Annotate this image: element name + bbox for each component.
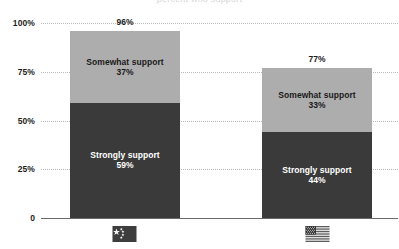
y-axis-tick-25: 25% (1, 164, 35, 174)
bar-total-label-united-states: 77% (308, 54, 325, 64)
y-axis-tick-50: 50% (1, 116, 35, 126)
bar-segment-strongly-support-china[interactable]: Strongly support 59% (70, 103, 180, 218)
segment-label: Strongly support (282, 165, 351, 175)
stacked-bar-chart: percent who support 100% 75% 50% 25% 0 9… (0, 0, 399, 249)
china-flag-icon (112, 226, 137, 242)
plot-area: 100% 75% 50% 25% 0 96% Somewhat support … (41, 23, 398, 218)
y-axis-tick-75: 75% (1, 67, 35, 77)
segment-label: Somewhat support (86, 57, 163, 67)
segment-value: 33% (308, 100, 325, 110)
chart-title-text: percent who support (157, 0, 242, 4)
y-axis-tick-0: 0 (1, 213, 35, 223)
segment-value: 37% (116, 67, 133, 77)
segment-value: 44% (308, 175, 325, 185)
bar-total-label-china: 96% (116, 17, 133, 27)
bar-segment-somewhat-support-united-states[interactable]: Somewhat support 33% (262, 68, 372, 132)
bar-united-states[interactable]: 77% Somewhat support 33% Strongly suppor… (262, 68, 372, 218)
y-axis-tick-100: 100% (1, 18, 35, 28)
axis-baseline (41, 218, 398, 219)
bar-china[interactable]: 96% Somewhat support 37% Strongly suppor… (70, 31, 180, 218)
gridline-100 (41, 23, 398, 24)
segment-label: Somewhat support (278, 90, 355, 100)
bar-segment-somewhat-support-china[interactable]: Somewhat support 37% (70, 31, 180, 103)
bar-segment-strongly-support-united-states[interactable]: Strongly support 44% (262, 132, 372, 218)
segment-label: Strongly support (90, 150, 159, 160)
united-states-flag-icon (305, 226, 330, 242)
segment-value: 59% (116, 160, 133, 170)
chart-title-cropped: percent who support (0, 0, 399, 7)
